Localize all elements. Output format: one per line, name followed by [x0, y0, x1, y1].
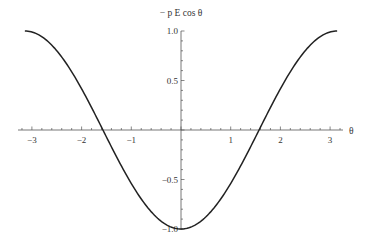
x-tick-label: 3	[328, 135, 333, 145]
x-axis-label: θ	[349, 126, 354, 136]
x-tick-label: 2	[278, 135, 283, 145]
x-tick-label: −3	[27, 135, 37, 145]
x-tick-label: −1	[127, 135, 137, 145]
y-tick-label: 0.5	[167, 76, 179, 86]
cosine-plot: −3−2−1123−1.0−0.50.51.0 − p E cos θ θ	[0, 0, 371, 245]
axes: −3−2−1123−1.0−0.50.51.0	[18, 26, 343, 234]
x-tick-label: 1	[228, 135, 233, 145]
y-tick-label: −0.5	[162, 175, 179, 185]
x-tick-label: −2	[77, 135, 87, 145]
y-tick-label: 1.0	[167, 26, 179, 36]
y-axis-label: − p E cos θ	[160, 8, 203, 18]
